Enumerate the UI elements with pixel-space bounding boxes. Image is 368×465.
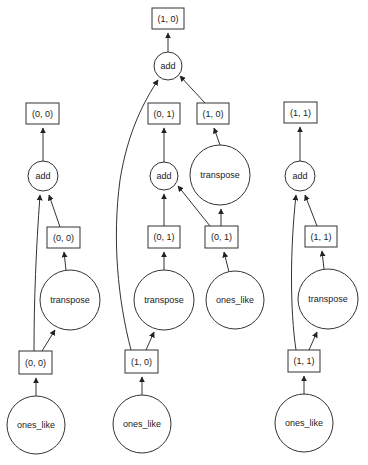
node-label: (0, 1) bbox=[153, 109, 174, 119]
edge-ones_00-to-transpose_00 bbox=[42, 330, 55, 351]
node-label: add bbox=[156, 171, 171, 181]
edge-transpose_11-to-tr_11 bbox=[322, 251, 324, 269]
key-node-out_01: (0, 1) bbox=[148, 103, 180, 124]
node-label: add bbox=[292, 171, 307, 181]
edges-layer bbox=[34, 33, 324, 396]
node-label: ones_like bbox=[17, 420, 55, 430]
edge-transpose_00-to-tr_00 bbox=[64, 252, 66, 270]
node-label: transpose bbox=[144, 295, 184, 305]
task-node-add_00: add bbox=[28, 161, 58, 191]
edge-ones_11-to-add_11 bbox=[292, 195, 297, 350]
key-node-tr_01: (0, 1) bbox=[148, 226, 180, 248]
node-label: transpose bbox=[308, 294, 348, 304]
edge-transpose_10-to-tr_10 bbox=[214, 128, 220, 145]
task-node-ones_like_00: ones_like bbox=[7, 396, 65, 454]
edge-tr_11-to-add_11 bbox=[305, 195, 317, 226]
task-node-transpose_01: transpose bbox=[134, 270, 194, 330]
nodes-layer: (1, 0)add(0, 0)(0, 1)(1, 0)(1, 1)addaddt… bbox=[7, 8, 358, 454]
node-label: (0, 0) bbox=[25, 358, 46, 368]
node-label: (1, 1) bbox=[290, 108, 311, 118]
node-label: (0, 1) bbox=[211, 232, 232, 242]
node-label: (1, 0) bbox=[157, 14, 178, 24]
key-node-out_00: (0, 0) bbox=[26, 103, 59, 124]
key-node-out_11: (1, 1) bbox=[284, 102, 317, 123]
task-node-add_10: add bbox=[154, 52, 182, 80]
task-node-ones_like_01: ones_like bbox=[206, 271, 264, 329]
node-label: add bbox=[35, 171, 50, 181]
node-label: add bbox=[160, 61, 175, 71]
task-node-ones_like_11: ones_like bbox=[275, 394, 333, 452]
key-node-tr_10: (1, 0) bbox=[197, 103, 229, 124]
node-label: (1, 1) bbox=[310, 232, 331, 242]
node-label: (1, 1) bbox=[293, 356, 314, 366]
task-node-transpose_11: transpose bbox=[298, 269, 358, 329]
key-node-ones_10: (1, 0) bbox=[125, 350, 158, 373]
edge-tr_10-to-add_10 bbox=[180, 76, 205, 103]
key-node-ones_01: (0, 1) bbox=[205, 226, 238, 248]
node-label: ones_like bbox=[285, 418, 323, 428]
node-label: ones_like bbox=[123, 419, 161, 429]
node-label: transpose bbox=[50, 295, 90, 305]
task-node-transpose_00: transpose bbox=[40, 270, 100, 330]
node-label: transpose bbox=[200, 170, 240, 180]
task-graph: (1, 0)add(0, 0)(0, 1)(1, 0)(1, 1)addaddt… bbox=[0, 0, 368, 465]
task-node-add_11: add bbox=[285, 161, 315, 191]
edge-ones_11-to-transpose_11 bbox=[309, 332, 317, 350]
edge-ones_like_01-to-ones_01 bbox=[224, 252, 229, 272]
task-node-transpose_10: transpose bbox=[190, 145, 250, 205]
key-node-tr_11: (1, 1) bbox=[305, 226, 337, 247]
node-label: (0, 1) bbox=[153, 232, 174, 242]
task-node-ones_like_10: ones_like bbox=[113, 395, 171, 453]
edge-ones_10-to-transpose_01 bbox=[146, 332, 154, 350]
key-node-tr_00: (0, 0) bbox=[47, 227, 80, 248]
edge-ones_00-to-add_00 bbox=[34, 195, 40, 351]
node-label: (1, 0) bbox=[202, 109, 223, 119]
key-node-out_10: (1, 0) bbox=[152, 8, 184, 29]
key-node-ones_00: (0, 0) bbox=[19, 351, 52, 374]
node-label: (1, 0) bbox=[131, 357, 152, 367]
node-label: (0, 0) bbox=[53, 233, 74, 243]
task-node-add_01: add bbox=[150, 162, 178, 190]
node-label: ones_like bbox=[216, 295, 254, 305]
edge-tr_00-to-add_00 bbox=[49, 195, 60, 227]
node-label: (0, 0) bbox=[32, 109, 53, 119]
key-node-ones_11: (1, 1) bbox=[288, 350, 320, 372]
